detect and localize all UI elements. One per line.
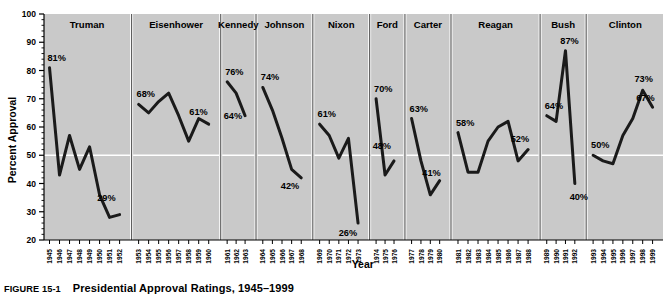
value-label-johnson-1964: 74%: [261, 72, 279, 82]
chart-plot-area: 1009080706050403020 19451946194719481949…: [0, 0, 669, 272]
x-tick-label: 1949: [86, 249, 93, 264]
y-tick-label: 60: [27, 122, 37, 132]
president-label-eisenhower: Eisenhower: [149, 19, 203, 30]
x-tick-label: 1947: [66, 249, 73, 264]
x-tick-label: 1990: [553, 249, 560, 264]
y-tick-label: 30: [27, 207, 37, 217]
figure-number: FIGURE 15-1: [4, 284, 61, 294]
y-tick-label: 50: [27, 150, 37, 160]
x-tick-label: 1999: [649, 249, 656, 264]
value-label-truman-1952: 29%: [97, 193, 115, 203]
x-tick-label: 1966: [279, 249, 286, 264]
value-label-bush-1991: 87%: [560, 36, 578, 46]
president-panel-background: [588, 14, 663, 240]
value-label-carter-1980: 41%: [422, 168, 440, 178]
x-tick-label: 1982: [465, 249, 472, 264]
x-tick-label: 1969: [316, 249, 323, 264]
president-label-clinton: Clinton: [609, 19, 642, 30]
value-label-nixon-1973: 26%: [339, 228, 357, 238]
x-tick-label: 1992: [571, 249, 578, 264]
value-label-eisenhower-1960: 61%: [189, 107, 207, 117]
x-tick-label: 1998: [639, 249, 646, 264]
value-label-bush-1992: 40%: [570, 192, 588, 202]
x-tick-label: 1988: [525, 249, 532, 264]
president-label-carter: Carter: [414, 19, 443, 30]
value-label-reagan-1981: 58%: [456, 118, 474, 128]
x-tick-label: 1978: [418, 249, 425, 264]
value-label-clinton-1999: 67%: [636, 93, 654, 103]
value-label-clinton-1998: 73%: [634, 74, 652, 84]
president-label-bush: Bush: [551, 19, 575, 30]
president-panel-background: [371, 14, 403, 240]
value-label-ford-1976: 48%: [373, 141, 391, 151]
x-tick-label: 1956: [165, 249, 172, 264]
x-tick-label: 1993: [590, 249, 597, 264]
president-label-nixon: Nixon: [328, 19, 355, 30]
x-tick-label: 1948: [76, 249, 83, 264]
president-panel-background: [542, 14, 585, 240]
x-tick-label: 1958: [185, 249, 192, 264]
president-label-truman: Truman: [70, 19, 105, 30]
x-tick-label: 1955: [155, 249, 162, 264]
x-tick-label: 1950: [96, 249, 103, 264]
x-tick-label: 1968: [298, 249, 305, 264]
figure-caption: FIGURE 15-1 Presidential Approval Rating…: [4, 282, 294, 294]
x-tick-label: 1951: [106, 249, 113, 264]
x-tick-label: 1984: [485, 249, 492, 264]
value-label-johnson-1968: 42%: [281, 181, 299, 191]
president-label-johnson: Johnson: [264, 19, 304, 30]
x-tick-label: 1979: [427, 249, 434, 264]
x-tick-label: 1997: [629, 249, 636, 264]
x-tick-label: 1962: [233, 249, 240, 264]
x-tick-label: 1971: [335, 249, 342, 264]
x-tick-label: 1976: [391, 249, 398, 264]
president-label-ford: Ford: [377, 19, 398, 30]
x-tick-label: 1977: [408, 249, 415, 264]
president-panel-background: [222, 14, 254, 240]
president-label-kennedy: Kennedy: [218, 19, 259, 30]
presidential-approval-line-chart: 1009080706050403020 19451946194719481949…: [0, 0, 669, 272]
x-tick-label: 1983: [475, 249, 482, 264]
x-tick-label: 1957: [175, 249, 182, 264]
y-tick-label: 40: [27, 179, 37, 189]
y-axis-title: Percent Approval: [6, 97, 18, 184]
president-panel-background: [44, 14, 130, 240]
x-tick-label: 1964: [259, 249, 266, 264]
x-tick-label: 1994: [600, 249, 607, 264]
x-tick-label: 1995: [610, 249, 617, 264]
x-axis-title: Year: [352, 258, 374, 270]
value-label-eisenhower-1953: 68%: [137, 89, 155, 99]
president-panel-background: [258, 14, 312, 240]
x-tick-label: 1967: [288, 249, 295, 264]
y-tick-label: 20: [27, 235, 37, 245]
y-tick-label: 80: [27, 66, 37, 76]
x-tick-label: 1953: [135, 249, 142, 264]
value-label-carter-1977: 63%: [410, 104, 428, 114]
x-tick-label: 1985: [495, 249, 502, 264]
x-tick-label: 1954: [145, 249, 152, 264]
x-tick-label: 1989: [543, 249, 550, 264]
value-label-kennedy-1961: 76%: [225, 67, 243, 77]
x-tick-label: 1960: [205, 249, 212, 264]
x-tick-label: 1952: [116, 249, 123, 264]
value-label-bush-1989: 64%: [545, 101, 563, 111]
x-tick-label: 1991: [562, 249, 569, 264]
x-tick-label: 1945: [46, 249, 53, 264]
x-tick-label: 1980: [436, 249, 443, 264]
value-label-nixon-1969: 61%: [318, 109, 336, 119]
y-tick-label: 90: [27, 37, 37, 47]
x-tick-label: 1963: [242, 249, 249, 264]
value-label-kennedy-1963: 64%: [224, 111, 242, 121]
value-label-clinton-1993: 50%: [591, 140, 609, 150]
x-tick-label: 1981: [455, 249, 462, 264]
x-tick-label: 1975: [382, 249, 389, 264]
y-axis-ticks: 1009080706050403020: [22, 9, 44, 245]
x-tick-label: 1986: [505, 249, 512, 264]
x-tick-label: 1946: [56, 249, 63, 264]
x-tick-label: 1970: [326, 249, 333, 264]
president-panel-background: [133, 14, 219, 240]
value-label-reagan-1988: 52%: [511, 134, 529, 144]
figure-title: Presidential Approval Ratings, 1945–1999: [73, 282, 294, 294]
x-tick-label: 1961: [224, 249, 231, 264]
value-label-ford-1974: 70%: [374, 84, 392, 94]
